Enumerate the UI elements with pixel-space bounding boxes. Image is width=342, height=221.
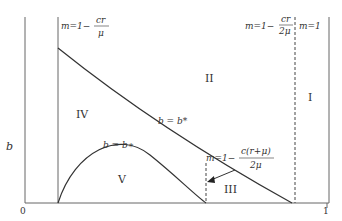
arrow-line <box>211 170 235 180</box>
curve-b-star-lower <box>58 144 206 203</box>
b-star-upper-label: b = b* <box>158 116 188 126</box>
middle-formula-m: m=1− <box>206 153 235 163</box>
region-II: II <box>205 72 214 85</box>
region-III: III <box>224 183 237 196</box>
arrow-head <box>207 176 215 183</box>
left-formula-m: m=1− <box>61 21 90 31</box>
left-formula-den: μ <box>98 28 104 38</box>
m-eq-1-label: m=1 <box>299 21 321 31</box>
right-formula-m: m=1− <box>245 21 274 31</box>
middle-formula-num: c(r+μ) <box>241 146 271 156</box>
b-star-lower-label: b = b∗ <box>103 140 134 150</box>
phase-diagram: b 0 1 m=1− cr μ m=1− cr 2μ m=1 m=1− c(r+… <box>0 0 342 221</box>
y-axis-label: b <box>6 140 13 153</box>
origin-label: 0 <box>20 206 26 216</box>
right-formula-num: cr <box>281 14 291 24</box>
left-formula-num: cr <box>96 15 106 25</box>
region-I: I <box>308 91 312 104</box>
x-end-label: 1 <box>323 206 329 216</box>
right-formula-den: 2μ <box>278 26 291 36</box>
middle-formula-den: 2μ <box>249 160 262 170</box>
region-V: V <box>117 173 127 186</box>
region-IV: IV <box>76 108 89 121</box>
